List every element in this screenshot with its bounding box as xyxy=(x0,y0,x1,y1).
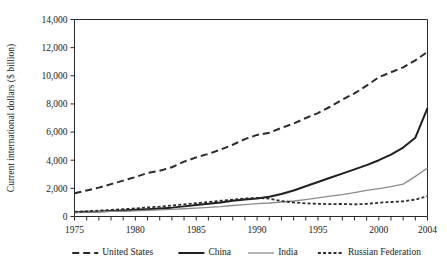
y-tick-label: 10,000 xyxy=(41,71,67,81)
x-tick-label: 2004 xyxy=(418,225,437,235)
x-tick-label: 2000 xyxy=(369,225,388,235)
x-tick-label: 1990 xyxy=(248,225,267,235)
x-tick-label: 1975 xyxy=(65,225,84,235)
series-line-china xyxy=(75,108,428,212)
y-tick-label: 0 xyxy=(63,212,68,222)
y-tick-label: 8,000 xyxy=(46,99,68,109)
y-tick-label: 6,000 xyxy=(46,127,68,137)
legend-label-india: India xyxy=(278,247,298,257)
y-tick-label: 2,000 xyxy=(46,184,68,194)
y-axis-title: Current international dollars ($ billion… xyxy=(6,44,17,192)
chart-figure: 02,0004,0006,0008,00010,00012,00014,0001… xyxy=(0,0,447,275)
x-tick-label: 1995 xyxy=(308,225,327,235)
legend-label-russian-federation: Russian Federation xyxy=(348,247,421,257)
line-chart: 02,0004,0006,0008,00010,00012,00014,0001… xyxy=(0,0,447,275)
series-line-india xyxy=(75,168,428,212)
y-tick-label: 4,000 xyxy=(46,156,68,166)
x-tick-label: 1985 xyxy=(187,225,206,235)
legend-label-china: China xyxy=(208,247,231,257)
series-line-united-states xyxy=(75,52,428,193)
x-tick-label: 1980 xyxy=(126,225,145,235)
plot-frame xyxy=(75,20,428,217)
legend-label-united-states: United States xyxy=(102,247,153,257)
y-tick-label: 12,000 xyxy=(41,43,67,53)
y-tick-label: 14,000 xyxy=(41,15,67,25)
